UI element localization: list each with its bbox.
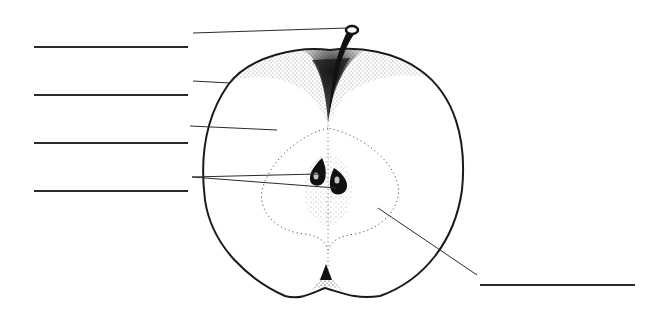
stem-cavity-shading (215, 48, 440, 125)
leader-line-seed-upper (192, 174, 318, 177)
calyx (312, 264, 342, 290)
answer-blank-skin[interactable] (34, 94, 188, 96)
leader-line-flesh (190, 126, 277, 130)
answer-blank-core[interactable] (480, 284, 635, 286)
answer-blank-stem[interactable] (34, 46, 188, 48)
answer-blank-flesh[interactable] (34, 142, 188, 144)
answer-input-core[interactable] (480, 267, 635, 283)
leader-line-stem (193, 28, 347, 33)
apple-diagram (0, 0, 656, 326)
answer-blank-seeds[interactable] (34, 190, 188, 192)
answer-input-flesh[interactable] (34, 125, 188, 141)
answer-input-seeds[interactable] (34, 173, 188, 189)
answer-input-skin[interactable] (34, 77, 188, 93)
leader-line-skin (193, 81, 230, 83)
answer-input-stem[interactable] (34, 29, 188, 45)
